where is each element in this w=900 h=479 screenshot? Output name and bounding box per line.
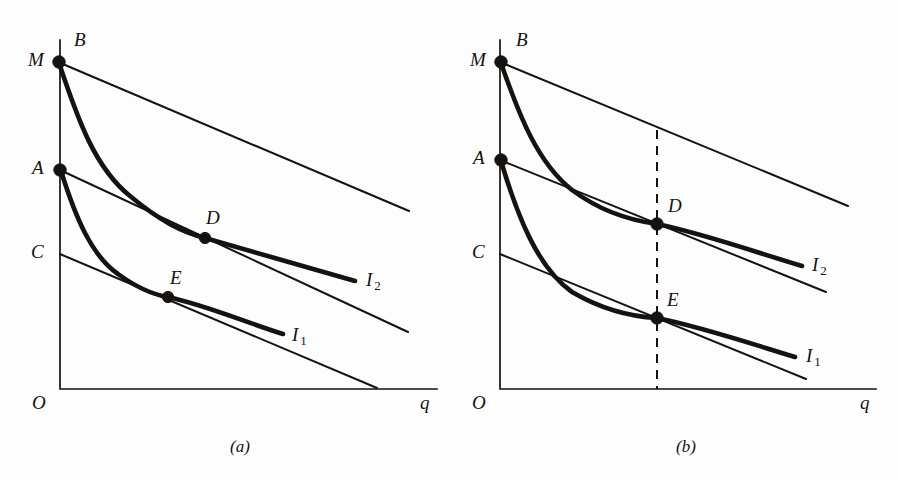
panel-a-axes [60,40,437,389]
panel-a-label-e: E [170,268,182,287]
panel-a-label-i1: I1 [292,325,307,347]
panel-b-label-a: A [473,148,485,167]
figure-root: M B A C D E O q I2 I1 (a) M B A C D E O … [0,0,900,479]
panel-a-point-d-dot [199,232,210,243]
panel-a-label-origin: O [32,393,46,412]
panel-a-label-i2-sub: 2 [372,278,381,293]
diagram-canvas [0,0,900,479]
panel-b-label-x-axis: q [860,393,870,412]
panel-a-label-d: D [206,208,220,227]
panel-a-label-a: A [32,158,44,177]
panel-b-label-i1: I1 [806,346,821,368]
panel-b-group [495,40,876,389]
panel-b-label-i2-sub: 2 [818,263,827,278]
panel-b-caption: (b) [676,438,696,455]
panel-b-point-mb-dot [495,56,507,68]
panel-b-label-d: D [668,196,682,215]
panel-a-point-a-dot [54,164,66,176]
panel-a-budget-line-a [60,170,408,332]
panel-b-axes [500,40,876,389]
panel-a-budget-line-mb [58,62,409,211]
panel-b-label-c: C [472,242,485,261]
panel-a-label-i1-sub: 1 [298,333,307,348]
panel-b-indifference-curve-i1 [501,161,795,357]
panel-b-label-b: B [516,30,528,49]
panel-b-label-origin: O [472,393,486,412]
panel-b-point-a-dot [495,154,507,166]
panel-b-point-d-dot [651,218,663,230]
panel-b-label-i1-sub: 1 [812,354,821,369]
panel-a-point-e-dot [162,291,173,302]
panel-a-label-c: C [31,242,44,261]
panel-b-label-m: M [470,50,486,69]
panel-a-label-m: M [28,50,44,69]
panel-a-caption: (a) [230,438,250,455]
panel-a-label-b: B [74,30,86,49]
panel-b-label-i2: I2 [812,255,827,277]
panel-b-indifference-curve-i2 [501,63,802,266]
panel-b-label-e: E [667,290,679,309]
panel-b-point-e-dot [651,312,663,324]
panel-a-label-i2: I2 [366,270,381,292]
panel-b-budget-line-mb [500,62,848,206]
panel-a-group [53,40,437,389]
panel-a-point-mb-dot [53,56,65,68]
panel-a-label-x-axis: q [420,393,430,412]
panel-a-indifference-curve-i2 [59,63,355,281]
